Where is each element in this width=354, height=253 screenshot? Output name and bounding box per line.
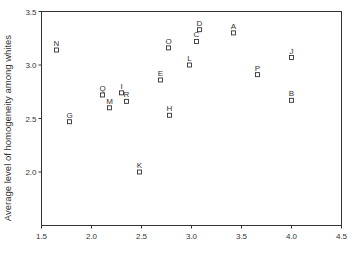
square-marker-icon	[68, 120, 72, 124]
x-tick-label: 1.5	[36, 232, 48, 241]
square-marker-icon	[198, 28, 202, 32]
point-label: N	[54, 39, 60, 48]
square-marker-icon	[290, 98, 294, 102]
y-tick-label: 2.5	[25, 115, 37, 124]
point-label: D	[197, 19, 203, 28]
data-point-k: K	[137, 161, 143, 174]
point-label: Q	[99, 84, 105, 93]
point-label: L	[187, 54, 192, 63]
data-point-p: P	[255, 64, 260, 77]
point-label: O	[165, 37, 171, 46]
data-point-e: E	[158, 69, 163, 82]
x-tick-label: 3.5	[236, 232, 248, 241]
x-tick-label: 2.5	[136, 232, 148, 241]
square-marker-icon	[125, 99, 129, 103]
point-label: M	[106, 97, 113, 106]
data-point-c: C	[194, 30, 200, 43]
point-label: K	[137, 161, 143, 170]
y-tick-label: 2.0	[25, 168, 37, 177]
y-tick-label: 3.5	[25, 8, 37, 17]
x-tick-label: 4.0	[286, 232, 298, 241]
point-label: R	[124, 90, 130, 99]
point-label: J	[290, 47, 294, 56]
data-point-h: H	[167, 104, 173, 117]
point-label: B	[289, 89, 294, 98]
x-tick-label: 4.5	[336, 232, 348, 241]
point-label: E	[158, 69, 163, 78]
scatter-plot-svg: 1.52.02.53.03.54.04.5 2.02.53.03.5 ABCDE…	[0, 0, 354, 253]
data-point-o: O	[165, 37, 171, 50]
y-axis-title: Average level of homogeneity among white…	[2, 35, 13, 221]
square-marker-icon	[167, 46, 171, 50]
point-label: G	[66, 111, 72, 120]
square-marker-icon	[188, 63, 192, 67]
data-point-l: L	[187, 54, 192, 67]
data-point-m: M	[106, 97, 113, 110]
square-marker-icon	[159, 78, 163, 82]
data-point-a: A	[231, 22, 237, 35]
data-points: ABCDEGHIJKLMNOPQR	[54, 19, 295, 174]
data-point-q: Q	[99, 84, 105, 97]
square-marker-icon	[138, 170, 142, 174]
square-marker-icon	[168, 113, 172, 117]
x-tick-label: 3.0	[186, 232, 198, 241]
square-marker-icon	[290, 56, 294, 60]
square-marker-icon	[256, 73, 260, 77]
point-label: A	[231, 22, 237, 31]
square-marker-icon	[55, 48, 59, 52]
data-point-r: R	[124, 90, 130, 103]
square-marker-icon	[108, 106, 112, 110]
data-point-b: B	[289, 89, 294, 102]
square-marker-icon	[195, 39, 199, 43]
point-label: P	[255, 64, 260, 73]
point-label: I	[120, 82, 122, 91]
x-tick-label: 2.0	[86, 232, 98, 241]
data-point-j: J	[290, 47, 294, 60]
data-point-d: D	[197, 19, 203, 32]
plot-frame	[42, 12, 342, 226]
data-point-n: N	[54, 39, 60, 52]
square-marker-icon	[101, 93, 105, 97]
data-point-g: G	[66, 111, 72, 124]
y-axis: 2.02.53.03.5	[25, 8, 41, 178]
square-marker-icon	[232, 31, 236, 35]
x-axis: 1.52.02.53.03.54.04.5	[36, 226, 348, 241]
point-label: H	[167, 104, 173, 113]
scatter-chart: 1.52.02.53.03.54.04.5 2.02.53.03.5 ABCDE…	[0, 0, 354, 253]
y-tick-label: 3.0	[25, 61, 37, 70]
